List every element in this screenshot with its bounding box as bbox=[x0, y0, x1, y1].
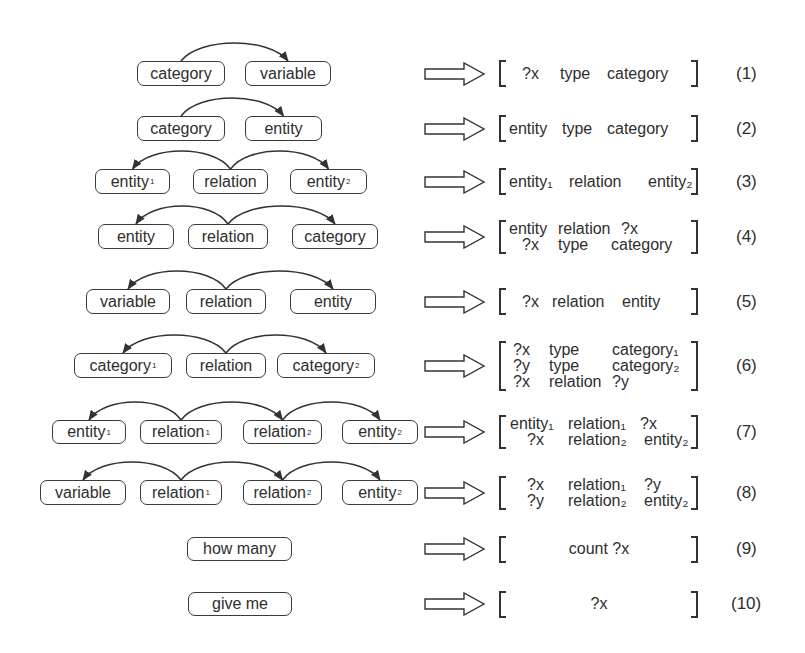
token-label: relation bbox=[152, 423, 204, 441]
token-box-3-3: entity2 bbox=[290, 169, 367, 194]
left-bracket-icon bbox=[499, 536, 506, 563]
triple-term: category₁ bbox=[612, 341, 679, 358]
token-box-4-1: entity bbox=[98, 224, 174, 249]
right-bracket-icon bbox=[691, 415, 698, 449]
token-label: relation bbox=[200, 293, 252, 311]
token-label: relation bbox=[200, 357, 252, 375]
token-label: variable bbox=[100, 293, 156, 311]
token-box-7-4: entity2 bbox=[342, 420, 418, 444]
row-number-label: (7) bbox=[736, 422, 757, 442]
triple-term: entity₂ bbox=[644, 431, 688, 448]
triple-term: entity₂ bbox=[648, 173, 692, 190]
token-subscript: 2 bbox=[355, 361, 359, 370]
dependency-arc-icon bbox=[226, 335, 326, 353]
triple-term: entity₁ bbox=[509, 173, 553, 190]
token-subscript: 2 bbox=[397, 488, 401, 497]
triple-term: relation bbox=[569, 173, 621, 190]
token-subscript: 2 bbox=[346, 177, 350, 186]
triple-term: category bbox=[607, 120, 668, 137]
left-bracket-icon bbox=[499, 476, 506, 510]
token-subscript: 1 bbox=[106, 428, 110, 437]
token-label: entity bbox=[358, 423, 396, 441]
left-bracket-icon bbox=[499, 60, 506, 87]
token-box-5-3: entity bbox=[290, 289, 376, 314]
right-bracket-icon bbox=[691, 60, 698, 87]
triple-term: entity bbox=[509, 120, 547, 137]
triple-pattern-line: ?x bbox=[508, 595, 690, 612]
token-box-7-1: entity1 bbox=[52, 420, 126, 444]
token-box-1-1: category bbox=[137, 61, 225, 86]
triple-term: type bbox=[549, 341, 579, 358]
dependency-arc-icon bbox=[228, 206, 335, 224]
token-box-7-3: relation2 bbox=[243, 420, 322, 444]
dependency-arc-icon bbox=[231, 151, 329, 169]
token-subscript: 2 bbox=[307, 428, 311, 437]
token-label: variable bbox=[55, 484, 111, 502]
triple-term: ?y bbox=[527, 492, 544, 509]
triple-pattern-line: count ?x bbox=[508, 540, 690, 557]
token-box-3-2: relation bbox=[193, 169, 268, 194]
token-label: give me bbox=[212, 595, 268, 613]
right-arrow-icon bbox=[424, 117, 486, 141]
triple-term: entity₁ bbox=[510, 415, 554, 432]
token-label: relation bbox=[254, 423, 306, 441]
token-label: category bbox=[150, 65, 211, 83]
token-label: entity bbox=[117, 228, 155, 246]
dependency-arc-icon bbox=[136, 206, 228, 224]
triple-term: relation bbox=[552, 293, 604, 310]
token-label: variable bbox=[260, 65, 316, 83]
dependency-arc-icon bbox=[181, 43, 288, 61]
token-box-8-4: entity2 bbox=[342, 480, 418, 505]
dependency-arc-icon bbox=[128, 271, 226, 289]
token-box-1-2: variable bbox=[245, 61, 331, 86]
token-label: relation bbox=[204, 173, 256, 191]
triple-term: count ?x bbox=[569, 540, 629, 557]
triple-term: category bbox=[607, 65, 668, 82]
token-box-2-2: entity bbox=[245, 116, 322, 141]
token-box-4-2: relation bbox=[188, 224, 268, 249]
triple-term: ?x bbox=[522, 236, 539, 253]
token-box-7-2: relation1 bbox=[140, 420, 222, 444]
triple-term: ?y bbox=[612, 373, 629, 390]
left-bracket-icon bbox=[499, 220, 506, 254]
triple-term: type bbox=[562, 120, 592, 137]
triple-term: type bbox=[560, 65, 590, 82]
dependency-arc-icon bbox=[181, 462, 283, 480]
right-arrow-icon bbox=[424, 420, 486, 444]
right-bracket-icon bbox=[691, 341, 698, 391]
token-label: relation bbox=[202, 228, 254, 246]
dependency-arc-icon bbox=[283, 462, 381, 480]
triple-term: relation₁ bbox=[568, 476, 626, 493]
triple-term: entity bbox=[622, 293, 660, 310]
left-bracket-icon bbox=[499, 591, 506, 618]
dependency-arc-icon bbox=[89, 402, 181, 420]
dependency-arc-icon bbox=[123, 335, 226, 353]
token-box-5-1: variable bbox=[86, 289, 170, 314]
triple-term: ?x bbox=[527, 431, 544, 448]
token-box-8-1: variable bbox=[40, 480, 126, 505]
left-bracket-icon bbox=[499, 168, 506, 195]
token-subscript: 1 bbox=[152, 361, 156, 370]
token-box-3-1: entity1 bbox=[95, 169, 170, 194]
right-arrow-icon bbox=[424, 62, 486, 86]
dependency-arc-icon bbox=[226, 271, 333, 289]
token-label: entity bbox=[314, 293, 352, 311]
right-arrow-icon bbox=[424, 354, 486, 378]
triple-term: relation₂ bbox=[568, 492, 627, 509]
triple-term: ?y bbox=[644, 476, 661, 493]
token-label: category bbox=[293, 357, 354, 375]
token-label: entity bbox=[307, 173, 345, 191]
triple-term: type bbox=[558, 236, 588, 253]
token-box-4-3: category bbox=[292, 224, 378, 249]
token-label: relation bbox=[254, 484, 306, 502]
right-arrow-icon bbox=[424, 290, 486, 314]
token-box-6-1: category1 bbox=[74, 353, 172, 378]
triple-term: ?x bbox=[513, 373, 530, 390]
right-bracket-icon bbox=[691, 536, 698, 563]
token-label: relation bbox=[152, 484, 204, 502]
triple-term: ?x bbox=[522, 65, 539, 82]
token-label: how many bbox=[203, 540, 276, 558]
row-number-label: (5) bbox=[736, 292, 757, 312]
token-subscript: 1 bbox=[150, 177, 154, 186]
triple-term: ?x bbox=[621, 220, 638, 237]
